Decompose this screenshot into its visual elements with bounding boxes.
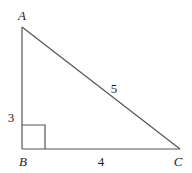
triangle bbox=[22, 27, 180, 149]
right-triangle-diagram: A B C 3 4 5 bbox=[0, 0, 192, 173]
vertex-label-a: A bbox=[17, 8, 26, 23]
vertex-label-c: C bbox=[174, 154, 183, 169]
side-ac bbox=[22, 27, 180, 149]
side-label-bc: 4 bbox=[98, 154, 105, 169]
side-label-ac: 5 bbox=[111, 81, 118, 96]
right-angle-marker bbox=[22, 125, 45, 149]
side-label-ab: 3 bbox=[8, 110, 15, 125]
vertex-label-b: B bbox=[19, 154, 27, 169]
